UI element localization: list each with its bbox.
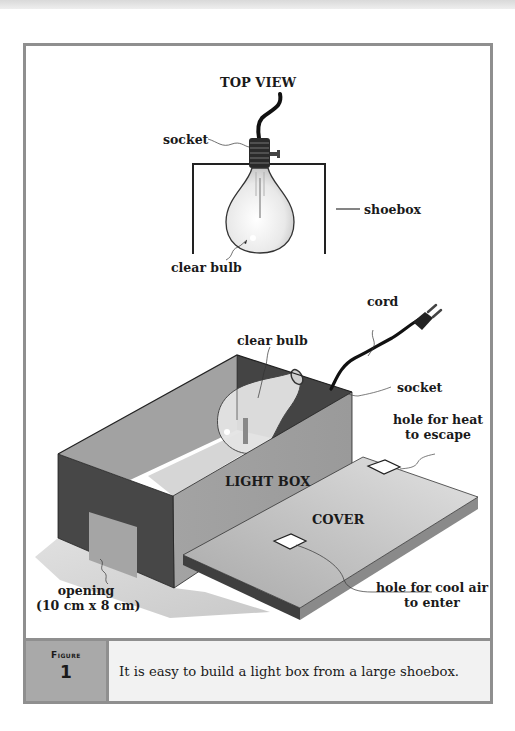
label-hole-cool-line1: hole for cool air: [376, 580, 488, 595]
label-opening-line1: opening: [36, 583, 136, 598]
label-hole-cool-line2: to enter: [376, 595, 488, 610]
top-view-diagram: [193, 94, 360, 260]
label-cord: cord: [367, 294, 398, 309]
label-clear-bulb-top: clear bulb: [171, 260, 242, 275]
label-clear-bulb-box: clear bulb: [237, 333, 308, 348]
figure-caption: Figure 1 It is easy to build a light box…: [23, 638, 493, 704]
label-hole-cool: hole for cool air to enter: [376, 580, 488, 610]
top-view-title: TOP VIEW: [213, 75, 303, 90]
figure-illustration: [0, 0, 515, 731]
label-hole-heat-line1: hole for heat: [392, 412, 484, 427]
label-light-box: LIGHT BOX: [225, 474, 310, 489]
label-opening-line2: (10 cm x 8 cm): [36, 598, 136, 613]
label-shoebox: shoebox: [364, 202, 421, 217]
label-hole-heat-line2: to escape: [392, 427, 484, 442]
label-hole-heat: hole for heat to escape: [392, 412, 484, 442]
figure-number-box: Figure 1: [26, 641, 106, 701]
figure-number: 1: [26, 662, 106, 682]
label-socket-top: socket: [163, 132, 208, 147]
figure-label: Figure: [26, 650, 106, 660]
caption-text: It is easy to build a light box from a l…: [119, 664, 459, 679]
label-cover: COVER: [312, 512, 364, 527]
caption-text-box: It is easy to build a light box from a l…: [109, 641, 490, 701]
light-box-diagram: [35, 305, 478, 620]
plug-icon: [413, 305, 441, 330]
label-socket-box: socket: [397, 380, 442, 395]
label-opening: opening (10 cm x 8 cm): [36, 583, 136, 613]
